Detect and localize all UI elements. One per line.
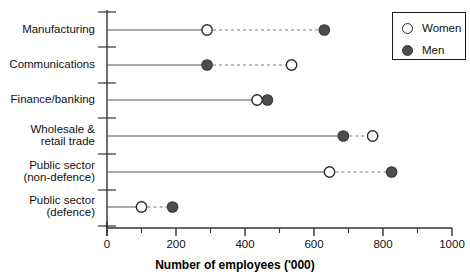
- data-point-women: [202, 25, 212, 35]
- x-tick-label: 1000: [439, 238, 465, 250]
- category-label: Wholesale & retail trade: [0, 123, 95, 148]
- legend-label-women: Women: [422, 22, 461, 34]
- legend-entry-men: Men: [402, 44, 444, 56]
- data-point-women: [324, 167, 334, 177]
- category-label: Communications: [0, 58, 95, 71]
- data-point-men: [386, 167, 396, 177]
- data-point-women: [252, 95, 262, 105]
- x-tick-label: 200: [166, 238, 185, 250]
- data-point-men: [202, 60, 212, 70]
- x-tick-label: 0: [104, 238, 110, 250]
- x-axis-title: Number of employees ('000): [0, 258, 470, 272]
- legend-entry-women: Women: [402, 22, 461, 34]
- data-point-men: [319, 25, 329, 35]
- filled-circle-icon: [402, 45, 413, 56]
- data-point-women: [367, 131, 377, 141]
- data-point-men: [262, 95, 272, 105]
- open-circle-icon: [402, 23, 413, 34]
- data-point-women: [136, 202, 146, 212]
- category-label: Public sector (defence): [0, 194, 95, 219]
- data-point-men: [338, 131, 348, 141]
- chart-container: ManufacturingCommunicationsFinance/banki…: [0, 0, 470, 278]
- legend-label-men: Men: [422, 44, 444, 56]
- x-tick-label: 400: [235, 238, 254, 250]
- data-point-men: [167, 202, 177, 212]
- x-tick-label: 600: [304, 238, 323, 250]
- data-point-women: [286, 60, 296, 70]
- category-label: Manufacturing: [0, 23, 95, 36]
- category-label: Finance/banking: [0, 93, 95, 106]
- x-tick-label: 800: [373, 238, 392, 250]
- category-label: Public sector (non-defence): [0, 159, 95, 184]
